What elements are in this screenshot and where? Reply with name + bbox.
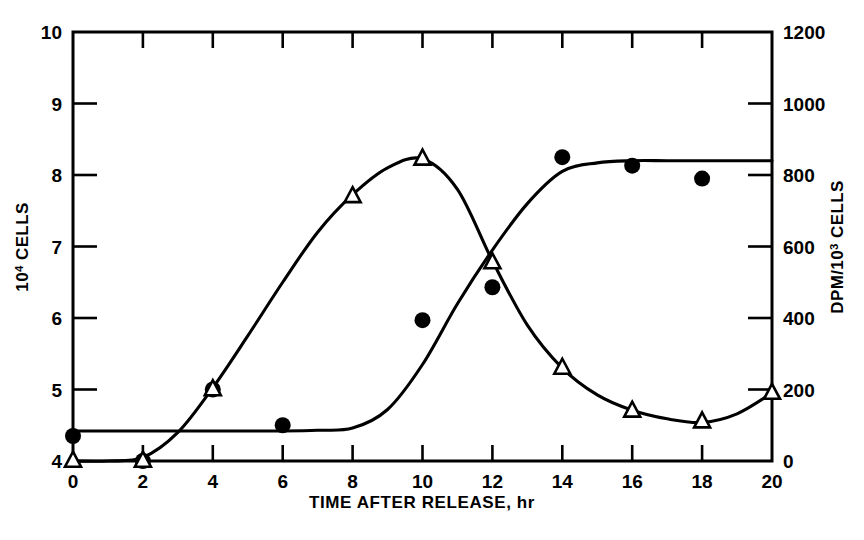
x-tick-label-4: 4 xyxy=(208,471,219,492)
chart-figure: 02468101214161820 45678910 0200400600800… xyxy=(0,0,864,540)
y-tick-label-left-6: 6 xyxy=(51,308,62,329)
y-tick-label-left-7: 7 xyxy=(51,237,62,258)
x-tick-label-10: 10 xyxy=(412,471,433,492)
x-tick-label-0: 0 xyxy=(68,471,79,492)
y-tick-label-left-9: 9 xyxy=(51,94,62,115)
y-tick-label-right-1000: 1000 xyxy=(783,94,825,115)
x-tick-label-18: 18 xyxy=(692,471,713,492)
data-point-circle xyxy=(415,312,431,328)
y-tick-label-right-600: 600 xyxy=(783,237,815,258)
data-point-circle xyxy=(275,417,291,433)
x-tick-label-14: 14 xyxy=(552,471,574,492)
x-axis-title: TIME AFTER RELEASE, hr xyxy=(309,493,535,512)
y-tick-label-left-5: 5 xyxy=(51,380,62,401)
y-tick-label-right-400: 400 xyxy=(783,308,815,329)
x-tick-label-6: 6 xyxy=(277,471,288,492)
y-tick-label-right-800: 800 xyxy=(783,165,815,186)
y-axis-left-title: 104 CELLS xyxy=(13,202,32,291)
cell-growth-dpm-chart: 02468101214161820 45678910 0200400600800… xyxy=(0,0,864,540)
data-point-circle xyxy=(554,149,570,165)
y-tick-label-right-1200: 1200 xyxy=(783,22,825,43)
y-tick-label-left-4: 4 xyxy=(51,451,62,472)
data-point-circle xyxy=(65,428,81,444)
data-point-circle xyxy=(624,158,640,174)
x-tick-label-20: 20 xyxy=(761,471,782,492)
x-tick-label-2: 2 xyxy=(138,471,149,492)
y-tick-label-right-0: 0 xyxy=(783,451,794,472)
x-tick-label-8: 8 xyxy=(347,471,358,492)
data-point-circle xyxy=(484,279,500,295)
y-tick-label-right-200: 200 xyxy=(783,380,815,401)
svg-text:104 CELLS: 104 CELLS xyxy=(13,202,32,291)
data-point-circle xyxy=(694,171,710,187)
y-tick-label-left-8: 8 xyxy=(51,165,62,186)
x-tick-label-16: 16 xyxy=(622,471,643,492)
y-tick-label-left-10: 10 xyxy=(41,22,62,43)
x-tick-label-12: 12 xyxy=(482,471,503,492)
